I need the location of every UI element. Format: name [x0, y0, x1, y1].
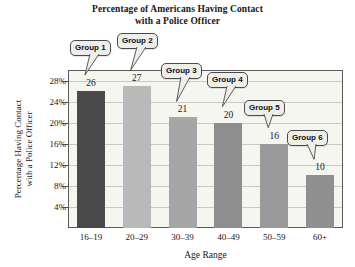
x-axis-title: Age Range	[68, 250, 343, 260]
callout-tails	[0, 0, 355, 267]
callout-tail	[177, 77, 190, 101]
bar-chart: Percentage of Americans Having Contact w…	[0, 0, 355, 267]
callout-tail	[264, 114, 273, 128]
callout-tail	[85, 54, 99, 75]
callout-tail	[307, 144, 316, 159]
callout-tail	[131, 47, 146, 70]
callout-tail	[222, 86, 236, 107]
